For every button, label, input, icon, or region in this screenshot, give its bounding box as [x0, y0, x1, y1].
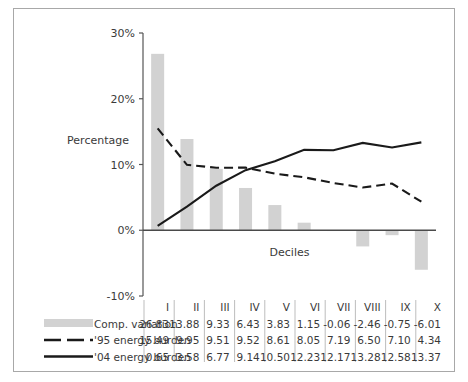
- y-axis-tick-label: 30%: [111, 27, 135, 40]
- table-cell: 13.88: [169, 318, 199, 330]
- table-column-header: III: [220, 301, 229, 313]
- dashed-line-series: [158, 128, 422, 201]
- table-cell: 26.83: [139, 318, 169, 330]
- bar: [239, 188, 252, 230]
- table-column-header: IX: [401, 301, 411, 313]
- y-axis-tick-label: 10%: [111, 159, 135, 172]
- bar: [268, 205, 281, 230]
- bar: [298, 223, 311, 231]
- bar: [151, 54, 164, 230]
- table-cell: 10.50: [260, 351, 290, 363]
- table-cell: 1.15: [297, 318, 320, 330]
- table-cell: 7.10: [387, 334, 410, 346]
- table-cell: 4.34: [418, 334, 442, 346]
- table-column-header: V: [283, 301, 291, 313]
- bar: [356, 230, 369, 246]
- table-cell: 9.33: [206, 318, 229, 330]
- bar: [210, 169, 223, 230]
- table-cell: -6.01: [414, 318, 441, 330]
- table-cell: 9.14: [236, 351, 260, 363]
- table-cell: -0.06: [323, 318, 350, 330]
- y-axis-title: Percentage: [67, 134, 129, 147]
- table-column-header: VI: [310, 301, 320, 313]
- table-column-header: VIII: [364, 301, 380, 313]
- table-cell: -0.75: [384, 318, 411, 330]
- table-cell: 12.23: [290, 351, 320, 363]
- legend-bar-swatch: [44, 319, 93, 327]
- table-column-header: IV: [250, 301, 261, 313]
- table-cell: 9.51: [206, 334, 229, 346]
- table-cell: 13.28: [351, 351, 381, 363]
- y-axis-tick-label: 0%: [118, 224, 135, 237]
- table-cell: 3.83: [267, 318, 290, 330]
- chart-figure: 30%20%10%0%-10%PercentageDecilesIIIIIIIV…: [13, 8, 455, 372]
- data-table: IIIIIIIVVVIVIIVIIIIXXComp. variation26.8…: [44, 300, 441, 363]
- bar-series: [151, 54, 428, 270]
- table-column-header: I: [166, 301, 169, 313]
- table-cell: 9.95: [176, 334, 199, 346]
- table-cell: 9.52: [236, 334, 259, 346]
- y-axis-tick-label: 20%: [111, 93, 135, 106]
- table-cell: 3.58: [176, 351, 199, 363]
- table-row: '04 energy burden0.653.586.779.1410.5012…: [44, 351, 441, 363]
- table-cell: 6.43: [236, 318, 259, 330]
- bar: [180, 139, 193, 230]
- energy-burden-chart: 30%20%10%0%-10%PercentageDecilesIIIIIIIV…: [14, 9, 454, 371]
- table-cell: 6.77: [206, 351, 229, 363]
- y-axis-tick-label: -10%: [107, 290, 135, 303]
- table-cell: 6.50: [357, 334, 380, 346]
- table-cell: 7.19: [327, 334, 350, 346]
- table-column-header: II: [193, 301, 199, 313]
- table-cell: -2.46: [353, 318, 380, 330]
- table-cell: 12.58: [381, 351, 411, 363]
- bar: [386, 230, 399, 235]
- table-cell: 13.37: [411, 351, 441, 363]
- table-column-header: X: [434, 301, 441, 313]
- table-cell: 0.65: [146, 351, 169, 363]
- table-row: '95 energy burden15.499.959.519.528.618.…: [44, 334, 441, 346]
- table-cell: 8.05: [297, 334, 320, 346]
- table-cell: 8.61: [267, 334, 290, 346]
- table-column-header: VII: [337, 301, 350, 313]
- table-row: Comp. variation26.8313.889.336.433.831.1…: [44, 318, 441, 330]
- plot-area: 30%20%10%0%-10%PercentageDeciles: [67, 27, 436, 303]
- bar: [415, 230, 428, 270]
- x-axis-title: Deciles: [270, 246, 310, 259]
- table-cell: 15.49: [139, 334, 169, 346]
- table-cell: 12.17: [320, 351, 350, 363]
